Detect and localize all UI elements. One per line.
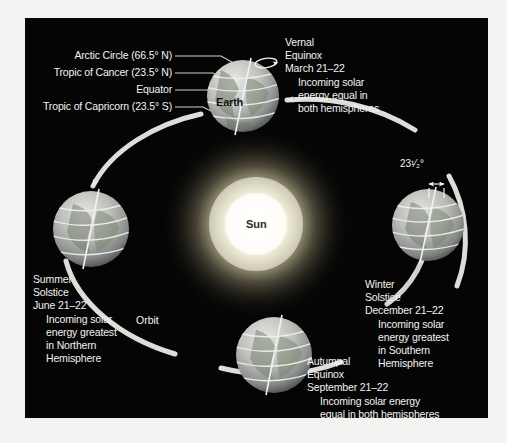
summer-date: June 21–22 — [33, 299, 86, 311]
label-equator: Equator — [25, 83, 172, 96]
summer-detail-2: energy greatest — [33, 326, 117, 339]
winter-season: Winter — [365, 278, 394, 290]
orbit-label: Orbit — [136, 314, 159, 326]
seasons-diagram-panel: Arctic Circle (66.5° N) Tropic of Cancer… — [25, 18, 488, 418]
label-tropic-of-cancer: Tropic of Cancer (23.5° N) — [25, 66, 172, 79]
autumnal-season: Autumnal — [307, 355, 350, 367]
summer-kind: Solstice — [33, 286, 69, 298]
autumnal-detail-1: Incoming solar energy — [307, 395, 439, 408]
label-arctic-circle: Arctic Circle (66.5° N) — [25, 49, 172, 62]
vernal-detail-1: Incoming solar — [285, 76, 379, 89]
vernal-detail-2: energy equal in — [285, 89, 379, 102]
globe-summer-solstice — [49, 189, 137, 269]
rotation-arrow-vernal — [254, 57, 278, 69]
summer-detail-4: Hemisphere — [33, 352, 117, 365]
axis-tilt-label: 23¹⁄₂° — [400, 158, 424, 169]
summer-season: Summer — [33, 273, 72, 285]
vernal-detail-3: both hemispheres — [285, 102, 379, 115]
event-block-winter-solstice: Winter Solstice December 21–22 Incoming … — [365, 278, 449, 370]
winter-detail-1: Incoming solar — [365, 318, 449, 331]
vernal-date: March 21–22 — [285, 62, 345, 74]
winter-kind: Solstice — [365, 291, 401, 303]
event-block-summer-solstice: Summer Solstice June 21–22 Incoming sola… — [33, 273, 117, 365]
autumnal-detail-2: equal in both hemispheres — [307, 408, 439, 418]
earth-label: Earth — [216, 96, 243, 108]
autumnal-kind: Equinox — [307, 368, 344, 380]
vernal-season: Vernal — [285, 36, 314, 48]
winter-date: December 21–22 — [365, 304, 443, 316]
event-block-vernal-equinox: Vernal Equinox March 21–22 Incoming sola… — [285, 36, 379, 115]
autumnal-date: September 21–22 — [307, 381, 388, 393]
label-tropic-of-capricorn: Tropic of Capricorn (23.5° S) — [25, 100, 172, 113]
sun-label: Sun — [246, 218, 267, 230]
vernal-kind: Equinox — [285, 49, 322, 61]
summer-detail-3: in Northern — [33, 339, 117, 352]
winter-detail-4: Hemisphere — [365, 357, 449, 370]
winter-detail-2: energy greatest — [365, 331, 449, 344]
summer-detail-1: Incoming solar — [33, 313, 117, 326]
winter-detail-3: in Southern — [365, 344, 449, 357]
